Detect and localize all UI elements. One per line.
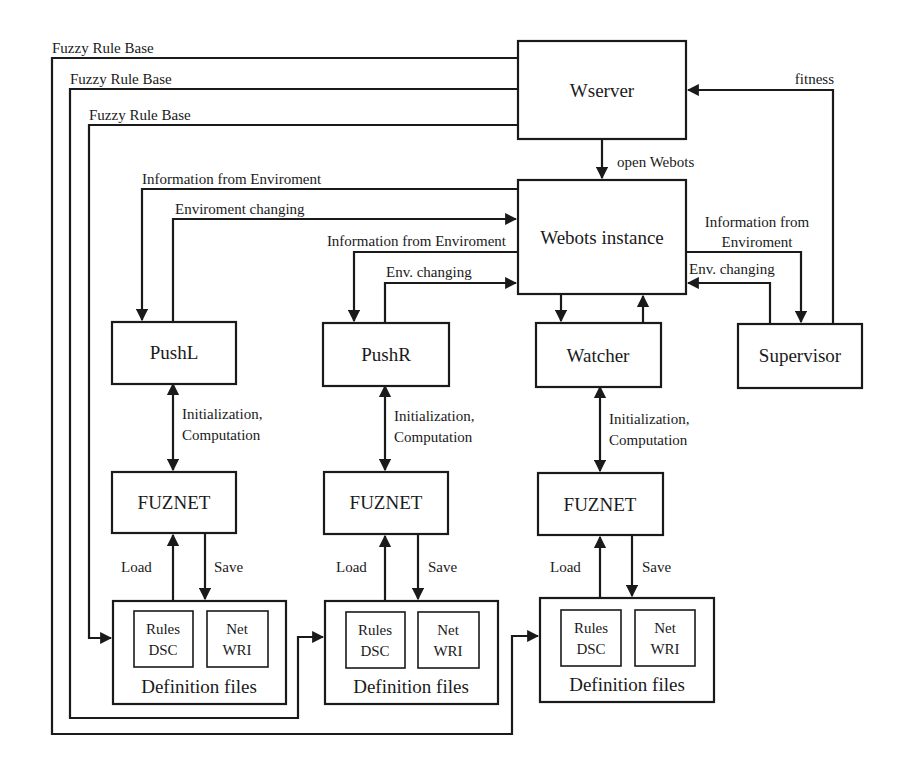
rules-dsc-box-w [561, 610, 621, 666]
info-to-supervisor-label-line2: Enviroment [722, 234, 794, 250]
fitness-edge: fitness [688, 71, 834, 324]
fuznet-node-pushl: FUZNET [112, 472, 236, 533]
net-label-l: Net [226, 621, 248, 637]
load-save-edges-r: Load Save [336, 534, 458, 601]
definition-files-pushl: Rules DSC Net WRI Definition files [113, 601, 286, 704]
load-save-edges-l: Load Save [121, 533, 244, 601]
init-label-w1: Initialization, [609, 411, 689, 427]
fuzzy-rule-base-label-1: Fuzzy Rule Base [52, 40, 154, 56]
architecture-diagram: Fuzzy Rule Base Fuzzy Rule Base Fuzzy Ru… [0, 0, 907, 780]
dsc-label-r: DSC [360, 643, 389, 659]
load-label-w: Load [550, 559, 581, 575]
pushl-node: PushL [112, 322, 236, 384]
fuznet-label-r: FUZNET [350, 492, 423, 513]
init-label-l2: Computation [182, 427, 261, 443]
fuznet-node-watcher: FUZNET [538, 473, 663, 535]
load-label-r: Load [336, 559, 367, 575]
net-label-w: Net [654, 620, 676, 636]
supervisor-node: Supervisor [738, 324, 862, 388]
env-changing-from-supervisor-edge: Env. changing [688, 261, 775, 324]
rules-dsc-box-r [346, 612, 405, 668]
webots-instance-node: Webots instance [518, 180, 686, 294]
env-changing-from-supervisor-label: Env. changing [689, 261, 775, 277]
info-to-pushl-label: Information from Enviroment [142, 171, 322, 187]
init-computation-edge-pushl: Initialization, Computation [173, 384, 262, 470]
definition-files-label-w: Definition files [569, 674, 685, 695]
dsc-label-w: DSC [576, 641, 605, 657]
webots-watcher-edges [561, 294, 643, 323]
wri-label-l: WRI [222, 642, 251, 658]
definition-files-label-l: Definition files [141, 676, 257, 697]
dsc-label-l: DSC [148, 642, 177, 658]
fuznet-label-l: FUZNET [138, 492, 211, 513]
info-to-pushr-label: Information from Enviroment [327, 233, 507, 249]
init-computation-edge-pushr: Initialization, Computation [385, 386, 474, 470]
wserver-node: Wserver [518, 41, 686, 139]
wri-label-w: WRI [650, 641, 679, 657]
rules-label-l: Rules [146, 621, 180, 637]
fuzzy-rule-base-label-2: Fuzzy Rule Base [70, 71, 172, 87]
pushr-node: PushR [323, 323, 449, 386]
wri-label-r: WRI [433, 643, 462, 659]
fuznet-node-pushr: FUZNET [324, 472, 448, 534]
fuznet-label-w: FUZNET [564, 494, 637, 515]
rules-dsc-box-l [134, 611, 193, 667]
rules-label-w: Rules [574, 620, 608, 636]
definition-files-pushr: Rules DSC Net WRI Definition files [325, 601, 498, 704]
save-label-r: Save [428, 559, 458, 575]
init-label-r2: Computation [394, 429, 473, 445]
load-save-edges-w: Load Save [550, 535, 672, 598]
env-changing-from-pushr-label: Env. changing [386, 264, 472, 280]
definition-files-watcher: Rules DSC Net WRI Definition files [540, 598, 714, 702]
pushr-label: PushR [361, 344, 411, 365]
load-label-l: Load [121, 559, 152, 575]
info-to-supervisor-label-line1: Information from [705, 214, 810, 230]
env-changing-from-pushl-edge: Enviroment changing [173, 201, 516, 322]
fuzzy-rule-base-label-3: Fuzzy Rule Base [89, 107, 191, 123]
init-label-w2: Computation [609, 432, 688, 448]
wserver-label: Wserver [570, 80, 635, 101]
open-webots-edge: open Webots [602, 139, 694, 178]
net-wri-box-w [635, 610, 695, 666]
save-label-w: Save [642, 559, 672, 575]
init-computation-edge-watcher: Initialization, Computation [600, 387, 689, 471]
net-wri-box-r [418, 612, 479, 668]
init-label-l1: Initialization, [182, 406, 262, 422]
fitness-label: fitness [795, 71, 834, 87]
definition-files-label-r: Definition files [353, 676, 469, 697]
watcher-node: Watcher [536, 323, 661, 387]
env-changing-from-pushl-label: Enviroment changing [175, 201, 305, 217]
save-label-l: Save [214, 559, 244, 575]
net-label-r: Net [437, 622, 459, 638]
rules-label-r: Rules [358, 622, 392, 638]
env-changing-from-pushr-edge: Env. changing [385, 264, 516, 323]
webots-instance-label: Webots instance [540, 227, 664, 248]
open-webots-label: open Webots [617, 154, 694, 170]
pushl-label: PushL [150, 342, 199, 363]
net-wri-box-l [207, 611, 268, 667]
supervisor-label: Supervisor [759, 345, 842, 366]
init-label-r1: Initialization, [394, 408, 474, 424]
watcher-label: Watcher [567, 345, 630, 366]
